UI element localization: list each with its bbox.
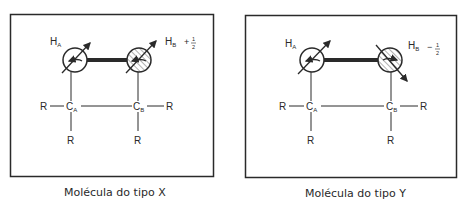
panel-molecule-x: HA HB + 1 2 CA CB R R R R xyxy=(11,15,214,177)
substituent-r: R xyxy=(67,135,74,146)
substituent-r: R xyxy=(40,101,47,112)
substituent-r: R xyxy=(134,135,141,146)
label-hb: HB xyxy=(165,36,176,48)
spin-value: − 1 2 xyxy=(427,42,440,56)
label-ha: HA xyxy=(50,36,61,48)
label-cb: CB xyxy=(133,101,144,113)
caption-x: Molécula do tipo X xyxy=(64,186,166,199)
panel-molecule-y: HA HB − 1 2 CA CB R R R R xyxy=(246,16,457,178)
label-ca: CA xyxy=(306,101,317,113)
svg-text:2: 2 xyxy=(192,44,195,50)
caption-y: Molécula do tipo Y xyxy=(305,187,406,200)
svg-text:+: + xyxy=(184,37,189,47)
substituent-r: R xyxy=(387,135,394,146)
substituent-r: R xyxy=(307,135,314,146)
label-ca: CA xyxy=(66,101,77,113)
svg-text:2: 2 xyxy=(436,50,439,56)
nucleus-ha xyxy=(298,41,330,74)
substituent-r: R xyxy=(420,101,427,112)
substituent-r: R xyxy=(166,101,173,112)
substituent-r: R xyxy=(279,101,286,112)
nucleus-hb xyxy=(126,41,156,73)
nucleus-ha xyxy=(62,43,90,73)
svg-text:1: 1 xyxy=(436,42,439,48)
label-ha: HA xyxy=(285,38,296,50)
spin-value: + 1 2 xyxy=(184,36,196,50)
label-cb: CB xyxy=(386,101,397,113)
frame-box xyxy=(246,16,457,178)
svg-text:1: 1 xyxy=(192,36,195,42)
svg-text:−: − xyxy=(427,42,432,52)
label-hb: HB xyxy=(408,40,419,52)
